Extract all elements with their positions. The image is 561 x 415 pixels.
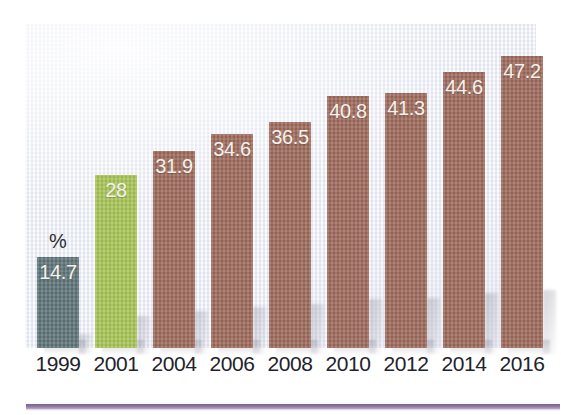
bar-value-label: 47.2 [501, 60, 543, 83]
bar-2010: 40.8 [327, 96, 369, 348]
x-tick-2016: 2016 [493, 352, 551, 376]
bar-2012: 41.3 [385, 93, 427, 348]
x-axis-tick-labels: 199920012004200620082010201220142016 [25, 352, 536, 386]
x-tick-2001: 2001 [87, 352, 145, 376]
bar-value-label: 14.7 [37, 261, 79, 284]
bar-2004: 31.9 [153, 151, 195, 348]
x-tick-2008: 2008 [261, 352, 319, 376]
bar-value-label: 44.6 [443, 76, 485, 99]
bar-group: 41.3 [385, 93, 427, 348]
bottom-rule-shadow [26, 409, 560, 411]
bar-value-label: 40.8 [327, 100, 369, 123]
x-tick-2006: 2006 [203, 352, 261, 376]
x-tick-2004: 2004 [145, 352, 203, 376]
bar-2016: 47.2 [501, 56, 543, 348]
bar-2014: 44.6 [443, 72, 485, 348]
bar-2006: 34.6 [211, 134, 253, 348]
bar-group: 47.2 [501, 56, 543, 348]
x-tick-2014: 2014 [435, 352, 493, 376]
bar-group: 28 [95, 175, 137, 348]
x-tick-1999: 1999 [29, 352, 87, 376]
bar-group: 36.5 [269, 122, 311, 348]
bar-chart-image: 14.7%2831.934.636.540.841.344.647.2 1999… [0, 0, 561, 415]
bar-group: 31.9 [153, 151, 195, 348]
bar-group: 14.7% [37, 257, 79, 348]
bar-2008: 36.5 [269, 122, 311, 348]
bar-value-label: 41.3 [385, 97, 427, 120]
unit-percent-label: % [37, 230, 79, 253]
x-tick-2010: 2010 [319, 352, 377, 376]
x-tick-2012: 2012 [377, 352, 435, 376]
bar-value-label: 34.6 [211, 138, 253, 161]
bar-group: 40.8 [327, 96, 369, 348]
bar-value-label: 31.9 [153, 155, 195, 178]
bar-value-label: 36.5 [269, 126, 311, 149]
bar-2001: 28 [95, 175, 137, 348]
bar-1999: 14.7 [37, 257, 79, 348]
bar-group: 44.6 [443, 72, 485, 348]
bar-value-label: 28 [95, 179, 137, 202]
bar-group: 34.6 [211, 134, 253, 348]
plot-area: 14.7%2831.934.636.540.841.344.647.2 [25, 24, 536, 348]
